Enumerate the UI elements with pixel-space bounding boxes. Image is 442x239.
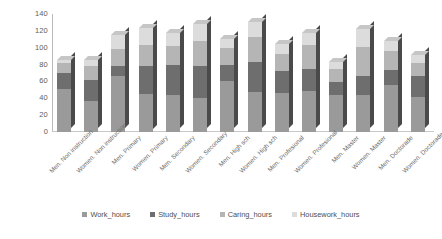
bar-segment-study-hours [329, 82, 343, 95]
bar-segment-housework-hours [384, 41, 398, 51]
bar-segment-caring-hours [248, 37, 262, 62]
bar-segment-caring-hours [84, 66, 98, 79]
legend-label: Work_hours [90, 210, 130, 219]
bar-segment-caring-hours [139, 45, 153, 66]
bar-segment-study-hours [302, 69, 316, 91]
legend-label: Housework_hours [300, 210, 360, 219]
legend-label: Caring_hours [228, 210, 272, 219]
bar-segment-work-hours [220, 81, 234, 132]
bar-segment-housework-hours [139, 28, 153, 46]
bar-front-face [166, 33, 180, 132]
bar-segment-housework-hours [111, 35, 125, 49]
y-tick-label: 40 [14, 93, 48, 102]
bars-container [53, 14, 434, 132]
bar-segment-study-hours [139, 66, 153, 94]
bar-side-face [398, 33, 402, 128]
bar-front-face [384, 41, 398, 132]
legend-item[interactable]: Housework_hours [292, 210, 360, 219]
legend-item[interactable]: Study_hours [150, 210, 200, 219]
bar-column[interactable] [411, 55, 425, 132]
y-tick-label: 80 [14, 60, 48, 69]
bar-segment-work-hours [193, 98, 207, 132]
bar-side-face [180, 25, 184, 128]
bar-segment-housework-hours [166, 33, 180, 46]
bar-segment-study-hours [220, 65, 234, 81]
bar-segment-caring-hours [356, 47, 370, 77]
bar-segment-work-hours [302, 91, 316, 132]
bar-front-face [111, 35, 125, 132]
bar-segment-caring-hours [166, 46, 180, 65]
bar-segment-study-hours [411, 76, 425, 96]
bar-side-face [262, 14, 266, 128]
bar-column[interactable] [329, 62, 343, 132]
y-tick-label: 0 [14, 127, 48, 136]
bar-side-face [207, 16, 211, 128]
bar-segment-work-hours [356, 95, 370, 132]
bar-segment-housework-hours [84, 60, 98, 67]
bar-segment-work-hours [411, 97, 425, 132]
legend-item[interactable]: Caring_hours [220, 210, 272, 219]
bar-segment-work-hours [84, 101, 98, 132]
bar-segment-work-hours [57, 89, 71, 132]
bar-segment-study-hours [275, 71, 289, 93]
bar-column[interactable] [84, 60, 98, 132]
legend-swatch-icon [292, 212, 297, 217]
bar-side-face [98, 52, 102, 128]
bar-front-face [302, 33, 316, 132]
bar-segment-work-hours [166, 95, 180, 132]
bar-column[interactable] [111, 35, 125, 132]
bar-front-face [329, 62, 343, 132]
y-tick-label: 20 [14, 110, 48, 119]
legend-swatch-icon [150, 212, 155, 217]
bar-front-face [356, 29, 370, 132]
legend-swatch-icon [220, 212, 225, 217]
y-tick-label: 140 [14, 9, 48, 18]
bar-side-face [316, 25, 320, 128]
bar-segment-study-hours [193, 66, 207, 98]
x-axis-tick-labels: Men. Non instructionWomen. Non instructi… [53, 132, 434, 204]
bar-column[interactable] [57, 60, 71, 132]
bar-segment-housework-hours [411, 55, 425, 63]
bar-segment-housework-hours [329, 62, 343, 69]
bar-segment-housework-hours [275, 44, 289, 54]
y-tick-label: 100 [14, 43, 48, 52]
bar-segment-study-hours [57, 73, 71, 89]
bar-column[interactable] [248, 22, 262, 132]
bar-front-face [139, 28, 153, 133]
bar-segment-study-hours [111, 66, 125, 76]
bar-column[interactable] [275, 44, 289, 132]
bar-side-face [343, 54, 347, 128]
bar-segment-caring-hours [193, 41, 207, 66]
legend-swatch-icon [82, 212, 87, 217]
legend-item[interactable]: Work_hours [82, 210, 130, 219]
bar-side-face [153, 20, 157, 129]
bar-front-face [275, 44, 289, 132]
bar-column[interactable] [139, 28, 153, 133]
bar-segment-work-hours [275, 93, 289, 132]
bar-column[interactable] [220, 39, 234, 132]
bar-front-face [57, 60, 71, 132]
y-axis-tick-labels: 140120100806040200 [14, 14, 48, 132]
chart-legend: Work_hoursStudy_hoursCaring_hoursHousewo… [0, 210, 442, 219]
bar-segment-work-hours [248, 92, 262, 132]
bar-segment-caring-hours [111, 49, 125, 66]
bar-column[interactable] [384, 41, 398, 132]
legend-label: Study_hours [158, 210, 200, 219]
bar-column[interactable] [356, 29, 370, 132]
bar-segment-study-hours [384, 70, 398, 85]
y-tick-label: 60 [14, 76, 48, 85]
bar-side-face [234, 31, 238, 128]
bar-column[interactable] [166, 33, 180, 132]
bar-column[interactable] [193, 24, 207, 132]
bar-segment-housework-hours [302, 33, 316, 46]
bar-side-face [425, 47, 429, 128]
bar-segment-study-hours [166, 65, 180, 95]
bar-front-face [248, 22, 262, 132]
bar-segment-housework-hours [248, 22, 262, 36]
bar-segment-work-hours [139, 94, 153, 132]
bar-segment-caring-hours [411, 63, 425, 76]
bar-front-face [411, 55, 425, 132]
bar-column[interactable] [302, 33, 316, 132]
bar-side-face [71, 52, 75, 128]
stacked-bar-chart: 140120100806040200 Men. Non instructionW… [0, 0, 442, 239]
